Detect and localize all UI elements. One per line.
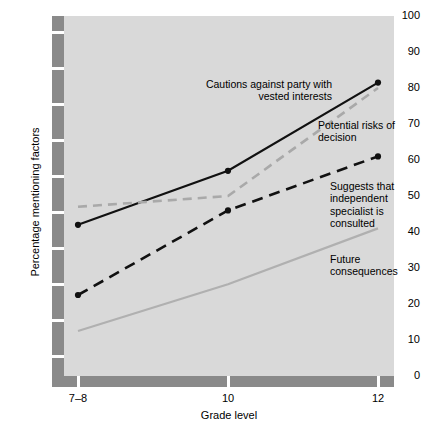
series-annotation-specialist: Suggests that independent specialist is … [330, 180, 422, 230]
series-annotation-cautions: Cautions against party with vested inter… [196, 78, 332, 103]
data-point-marker [375, 80, 381, 86]
data-point-marker [225, 168, 231, 174]
data-point-marker [75, 222, 81, 228]
series-annotation-potential-risks: Potential risks of decision [318, 119, 418, 144]
series-annotation-future-consequences: Future consequences [330, 253, 422, 278]
data-point-marker [75, 292, 81, 298]
data-point-marker [225, 207, 231, 213]
data-point-marker [375, 153, 381, 159]
series-line [78, 228, 378, 331]
